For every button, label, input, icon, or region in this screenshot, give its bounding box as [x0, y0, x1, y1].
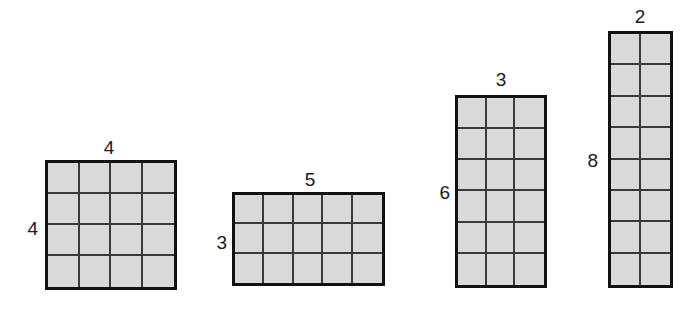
grid-cell: [515, 223, 544, 254]
grid-cell: [611, 254, 641, 285]
rectangle-3-width-label: 3: [496, 70, 507, 89]
grid-cell: [515, 129, 544, 160]
grid-cell: [641, 34, 671, 65]
rectangle-3-height-label: 6: [439, 183, 450, 202]
grid-cell: [143, 225, 175, 256]
grid-cell: [458, 223, 487, 254]
grid-cell: [143, 194, 175, 225]
grid-cell: [143, 163, 175, 194]
grid-cell: [641, 160, 671, 191]
grid-cell: [143, 256, 175, 287]
grid-cell: [264, 195, 293, 224]
grid-cell: [458, 129, 487, 160]
rectangle-1-width-label: 4: [104, 138, 115, 157]
grid-cell: [323, 195, 352, 224]
rectangle-2-width-label: 5: [305, 170, 316, 189]
grid-cell: [458, 191, 487, 222]
grid-cell: [235, 224, 264, 253]
grid-cell: [48, 194, 80, 225]
grid-cell: [458, 254, 487, 285]
grid-cell: [111, 256, 143, 287]
rectangle-4-grid: [608, 31, 673, 288]
grid-cell: [353, 254, 382, 283]
grid-cell: [515, 254, 544, 285]
grid-cell: [515, 98, 544, 129]
grid-cell: [641, 191, 671, 222]
grid-cell: [353, 195, 382, 224]
grid-cell: [323, 224, 352, 253]
rectangle-2-height-label: 3: [216, 233, 227, 252]
grid-cell: [611, 222, 641, 253]
grid-cell: [235, 195, 264, 224]
grid-cell: [323, 254, 352, 283]
grid-cell: [458, 160, 487, 191]
grid-cell: [458, 98, 487, 129]
grid-cell: [353, 224, 382, 253]
rectangle-2-grid: [232, 192, 385, 286]
rectangle-3-grid: [455, 95, 547, 288]
grid-cell: [80, 194, 112, 225]
grid-cell: [294, 254, 323, 283]
grid-cell: [641, 254, 671, 285]
grid-cell: [48, 225, 80, 256]
grid-cell: [611, 128, 641, 159]
grid-cell: [487, 191, 516, 222]
grid-cell: [487, 129, 516, 160]
grid-cell: [294, 195, 323, 224]
grid-cell: [611, 160, 641, 191]
grid-cell: [487, 254, 516, 285]
grid-cell: [641, 222, 671, 253]
grid-cell: [235, 254, 264, 283]
grid-cell: [515, 160, 544, 191]
grid-cell: [515, 191, 544, 222]
grid-cell: [111, 194, 143, 225]
grid-cell: [111, 163, 143, 194]
grid-cell: [611, 191, 641, 222]
grid-cell: [641, 97, 671, 128]
grid-cell: [487, 160, 516, 191]
grid-cell: [294, 224, 323, 253]
grid-cell: [48, 256, 80, 287]
grid-cell: [487, 98, 516, 129]
rectangle-1-grid: [45, 160, 177, 290]
grid-cell: [80, 256, 112, 287]
rectangle-4-width-label: 2: [635, 7, 646, 26]
grid-cell: [611, 97, 641, 128]
grid-cell: [80, 225, 112, 256]
grid-cell: [641, 65, 671, 96]
grid-cell: [264, 224, 293, 253]
rectangle-4-height-label: 8: [587, 151, 598, 170]
grid-cell: [48, 163, 80, 194]
grid-cell: [264, 254, 293, 283]
grid-cell: [487, 223, 516, 254]
grid-cell: [80, 163, 112, 194]
grid-cell: [611, 34, 641, 65]
grid-cell: [111, 225, 143, 256]
diagram-canvas: 44533628: [0, 0, 695, 314]
rectangle-1-height-label: 4: [27, 219, 38, 238]
grid-cell: [641, 128, 671, 159]
grid-cell: [611, 65, 641, 96]
